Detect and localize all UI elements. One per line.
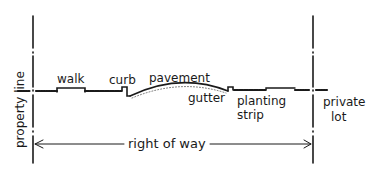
right-of-way-label: right of way: [128, 136, 206, 151]
planting-strip-label-line2: strip: [237, 108, 264, 122]
private-lot-label-line2: lot: [331, 110, 347, 124]
curb-left: [122, 87, 130, 96]
curb-label: curb: [109, 73, 136, 87]
pavement-label: pavement: [149, 71, 210, 85]
gutter-label: gutter: [188, 91, 225, 105]
walk-slab: [57, 88, 85, 92]
planting-strip-label-line1: planting: [237, 94, 286, 108]
street-cross-section-diagram: property line walk curb pavement gutter …: [0, 0, 385, 177]
walk-label: walk: [57, 72, 85, 86]
private-lot-label-line1: private: [323, 95, 365, 109]
property-line-label: property line: [13, 71, 27, 148]
planting-strip-slab: [266, 88, 295, 90]
curb-right: [228, 87, 233, 91]
